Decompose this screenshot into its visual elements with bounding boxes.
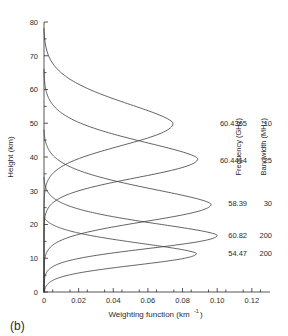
weighting-curve-58-39 xyxy=(44,130,211,292)
y-tick-label: 80 xyxy=(30,18,38,27)
weighting-function-chart: 00.020.040.060.080.100.12010203040506070… xyxy=(0,0,288,336)
weighting-curve-54-47 xyxy=(44,218,196,292)
legend-frequency-value: 58.39 xyxy=(228,199,247,208)
x-tick-label: 0 xyxy=(42,296,46,305)
x-tick-label: 0.02 xyxy=(71,296,86,305)
legend-bandwidth-value: 200 xyxy=(259,249,272,258)
y-tick-label: 40 xyxy=(30,153,38,162)
y-tick-label: 60 xyxy=(30,85,38,94)
figure-panel-b: 00.020.040.060.080.100.12010203040506070… xyxy=(0,0,288,336)
x-tick-label: 0.04 xyxy=(106,296,121,305)
x-tick-label: 0.08 xyxy=(175,296,190,305)
weighting-curve-60-4365 xyxy=(44,29,173,292)
y-tick-label: 70 xyxy=(30,52,38,61)
weighting-curve-60-4414 xyxy=(44,69,198,292)
panel-label: (b) xyxy=(10,319,25,333)
y-tick-label: 20 xyxy=(30,220,38,229)
legend-frequency-value: 60.4365 xyxy=(220,119,247,128)
y-tick-label: 10 xyxy=(30,254,38,263)
chart-labels: 00.020.040.060.080.100.12010203040506070… xyxy=(6,18,272,333)
x-axis-title: Weighting function (km xyxy=(108,310,190,319)
x-tick-label: 0.06 xyxy=(141,296,156,305)
y-axis-title: Height (km) xyxy=(6,136,15,178)
legend-frequency-value: 60.82 xyxy=(228,231,247,240)
x-tick-label: 0.10 xyxy=(210,296,225,305)
x-tick-label: 0.12 xyxy=(245,296,260,305)
chart-curves xyxy=(44,29,217,292)
legend-bandwidth-value: 10 xyxy=(264,119,272,128)
legend-frequency-value: 54.47 xyxy=(228,249,247,258)
legend-frequency-value: 60.4414 xyxy=(220,156,247,165)
legend-bandwidth-value: 25 xyxy=(264,156,272,165)
y-tick-label: 0 xyxy=(34,288,38,297)
y-tick-label: 50 xyxy=(30,119,38,128)
y-tick-label: 30 xyxy=(30,187,38,196)
legend-bandwidth-value: 200 xyxy=(259,231,272,240)
legend-bandwidth-value: 30 xyxy=(264,199,272,208)
x-axis-title-close: ) xyxy=(200,310,203,319)
x-axis-title-exponent: -1 xyxy=(194,308,199,314)
